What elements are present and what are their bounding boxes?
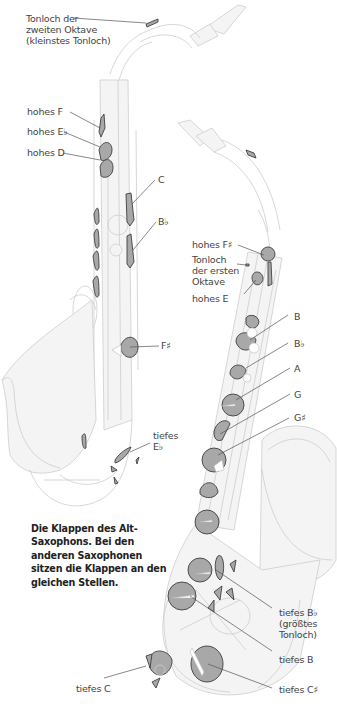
label-low-eb-line2: E♭	[153, 441, 178, 452]
figure-caption: Die Klappen des Alt-Saxophons. Bei den a…	[31, 522, 171, 589]
label-low-eb-line1: tiefes	[153, 430, 178, 441]
label-c: C	[158, 174, 164, 185]
label-octave1: Tonloch der ersten Oktave	[192, 254, 239, 287]
label-low-b: tiefes B	[279, 654, 313, 665]
label-high-d: hohes D	[27, 147, 65, 158]
label-bb-front: B♭	[158, 216, 169, 227]
label-high-e: hohes E	[192, 293, 228, 304]
label-gs: G♯	[294, 412, 306, 423]
label-high-eb: hohes E♭	[27, 126, 68, 137]
label-g: G	[294, 389, 301, 400]
label-octave1-line1: Tonloch	[192, 254, 239, 265]
label-octave1-line3: Oktave	[192, 276, 239, 287]
label-fs: F♯	[161, 340, 171, 351]
label-low-bb-line1: tiefes B♭	[279, 607, 318, 618]
label-octave2-line1: Tonloch der	[26, 13, 110, 24]
label-low-bb: tiefes B♭ (größtes Tonloch)	[279, 607, 318, 640]
label-low-c: tiefes C	[76, 683, 110, 694]
label-octave2: Tonloch der zweiten Oktave (kleinstes To…	[26, 13, 110, 46]
label-high-f: hohes F	[27, 106, 63, 117]
label-octave1-line2: der ersten	[192, 265, 239, 276]
label-bb-side: B♭	[294, 338, 305, 349]
label-a: A	[294, 363, 300, 374]
label-low-bb-line2: (größtes	[279, 618, 318, 629]
label-low-cs: tiefes C♯	[279, 684, 318, 695]
label-high-fs: hohes F♯	[192, 239, 232, 250]
label-b: B	[294, 311, 300, 322]
label-octave2-line3: (kleinstes Tonloch)	[26, 35, 110, 46]
label-low-bb-line3: Tonloch)	[279, 629, 318, 640]
label-low-eb: tiefes E♭	[153, 430, 178, 452]
label-octave2-line2: zweiten Oktave	[26, 24, 110, 35]
